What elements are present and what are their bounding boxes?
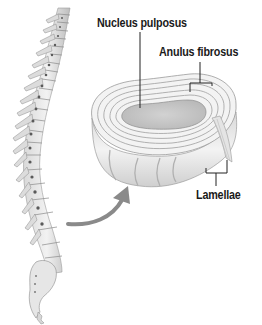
sacrum	[29, 260, 56, 318]
pointer-arrow	[68, 186, 130, 224]
label-anulus-fibrosus: Anulus fibrosus	[159, 45, 238, 59]
coccyx	[37, 312, 44, 324]
intervertebral-disc	[92, 74, 237, 187]
label-lamellae: Lamellae	[196, 188, 241, 202]
label-nucleus-pulposus: Nucleus pulposus	[97, 16, 187, 30]
spine	[13, 8, 70, 324]
